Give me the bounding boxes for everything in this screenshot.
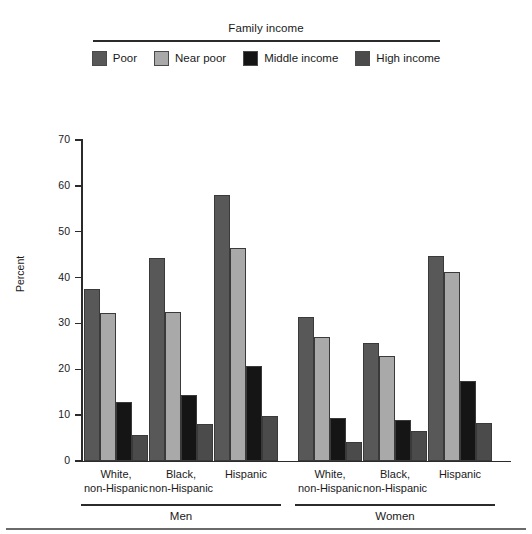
bar: [230, 248, 246, 461]
bar: [363, 343, 379, 461]
bar: [444, 272, 460, 461]
sex-bracket-label: Women: [295, 510, 495, 522]
bar: [428, 256, 444, 461]
bar: [116, 402, 132, 461]
bar: [149, 258, 165, 461]
bar: [262, 416, 278, 461]
x-axis-group-label: Hispanic: [405, 468, 515, 482]
sex-bracket-rule: [295, 504, 495, 506]
bar: [476, 423, 492, 461]
figure-bar-chart: Family income PoorNear poorMiddle income…: [0, 0, 532, 534]
figure-bottom-rule: [6, 528, 526, 530]
bar: [246, 366, 262, 461]
bar: [395, 420, 411, 461]
bar: [379, 356, 395, 461]
bar: [346, 442, 362, 461]
bar: [298, 317, 314, 461]
bars-layer: [0, 0, 532, 534]
bar: [197, 424, 213, 461]
bar: [181, 395, 197, 461]
bar: [460, 381, 476, 461]
bar: [100, 313, 116, 461]
bar: [314, 337, 330, 461]
bar: [411, 431, 427, 461]
sex-bracket-label: Men: [81, 510, 281, 522]
sex-bracket-rule: [81, 504, 281, 506]
bar: [132, 435, 148, 461]
plot-area: Percent 010203040506070 White, non-Hispa…: [0, 0, 532, 534]
bar: [330, 418, 346, 461]
bar: [165, 312, 181, 461]
bar: [84, 289, 100, 461]
bar: [214, 195, 230, 461]
